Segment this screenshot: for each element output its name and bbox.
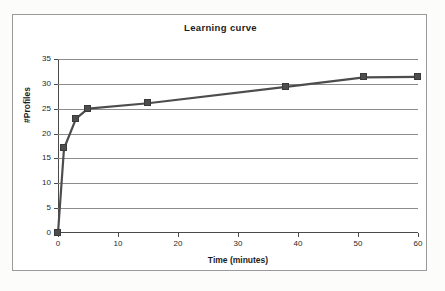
y-axis-title: #Profiles: [22, 87, 32, 123]
x-tick-mark: [418, 233, 419, 237]
chart-title: Learning curve: [13, 22, 428, 33]
y-tick-label: 30: [42, 79, 51, 88]
y-tick-label: 15: [42, 153, 51, 162]
chart-frame: Learning curve #Profiles Time (minutes) …: [12, 14, 427, 271]
y-tick-label: 20: [42, 129, 51, 138]
x-tick-label: 10: [114, 239, 123, 248]
scanned-page: Learning curve #Profiles Time (minutes) …: [0, 0, 445, 291]
x-tick-label: 30: [234, 239, 243, 248]
x-tick-label: 50: [354, 239, 363, 248]
x-tick-mark: [118, 233, 119, 237]
x-tick-mark: [298, 233, 299, 237]
plot-area: 05101520253035 0102030405060: [58, 59, 418, 233]
x-axis-title: Time (minutes): [58, 255, 418, 265]
data-point-marker: [84, 105, 91, 112]
y-tick-label: 10: [42, 178, 51, 187]
data-point-marker: [72, 115, 79, 122]
x-tick-label: 0: [56, 239, 60, 248]
y-tick-label: 25: [42, 104, 51, 113]
x-tick-label: 40: [294, 239, 303, 248]
series-line: [58, 59, 418, 233]
y-tick-label: 5: [47, 203, 51, 212]
x-tick-label: 20: [174, 239, 183, 248]
data-point-marker: [54, 229, 61, 236]
data-point-marker: [60, 144, 67, 151]
y-tick-label: 0: [47, 228, 51, 237]
data-point-marker: [144, 99, 151, 106]
data-point-marker: [360, 73, 367, 80]
x-tick-mark: [358, 233, 359, 237]
y-tick-label: 35: [42, 54, 51, 63]
x-tick-mark: [238, 233, 239, 237]
data-point-marker: [282, 83, 289, 90]
data-point-marker: [414, 73, 421, 80]
x-tick-label: 60: [414, 239, 423, 248]
x-tick-mark: [178, 233, 179, 237]
